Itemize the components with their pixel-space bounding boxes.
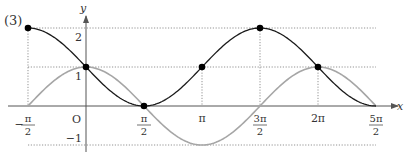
x-tick-numerator: 3π	[254, 113, 267, 124]
y-axis-label: y	[79, 2, 87, 15]
y-tick-label: 2	[75, 31, 82, 44]
x-tick-numerator: 5π	[370, 113, 383, 124]
x-tick-label: 2π	[311, 112, 325, 125]
x-tick-label: π	[198, 112, 205, 125]
origin-label: O	[72, 113, 81, 126]
x-tick-denominator: 2	[25, 126, 31, 137]
y-tick-label: 1	[75, 70, 82, 83]
marked-point	[199, 64, 206, 71]
x-tick-numerator: π	[141, 113, 148, 124]
function-graph: −π2π2π3π22π5π221−1 (3) y x O	[0, 0, 407, 155]
tick-labels: −π2π2π3π22π5π221−1	[14, 31, 383, 145]
x-tick-numerator: π	[25, 113, 32, 124]
curves	[28, 28, 376, 145]
x-tick-denominator: 2	[257, 126, 263, 137]
marked-point	[141, 103, 148, 110]
panel-label: (3)	[4, 13, 22, 28]
marked-point	[83, 64, 90, 71]
x-tick-sign: −	[14, 118, 23, 131]
y-tick-label: −1	[66, 132, 82, 145]
marked-point	[257, 25, 264, 32]
marked-point	[315, 64, 322, 71]
guide-lines	[28, 28, 376, 145]
marked-points	[25, 25, 322, 110]
marked-point	[25, 25, 32, 32]
x-axis-label: x	[397, 100, 404, 113]
x-tick-denominator: 2	[373, 126, 379, 137]
x-tick-denominator: 2	[141, 126, 147, 137]
